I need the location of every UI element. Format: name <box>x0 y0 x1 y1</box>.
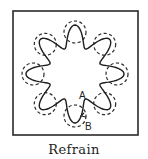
refrain-diagram: A B Refrain <box>0 0 148 159</box>
label-b: B <box>85 121 92 132</box>
dashed-circle-ring <box>22 21 128 127</box>
figure-caption: Refrain <box>0 142 148 157</box>
wavy-closed-curve <box>26 25 124 123</box>
dashed-circle <box>94 93 116 115</box>
dashed-circle <box>94 33 116 55</box>
dashed-circle <box>34 93 56 115</box>
diagram-frame <box>13 11 138 135</box>
label-a: A <box>79 90 86 101</box>
dashed-circle <box>34 33 56 55</box>
